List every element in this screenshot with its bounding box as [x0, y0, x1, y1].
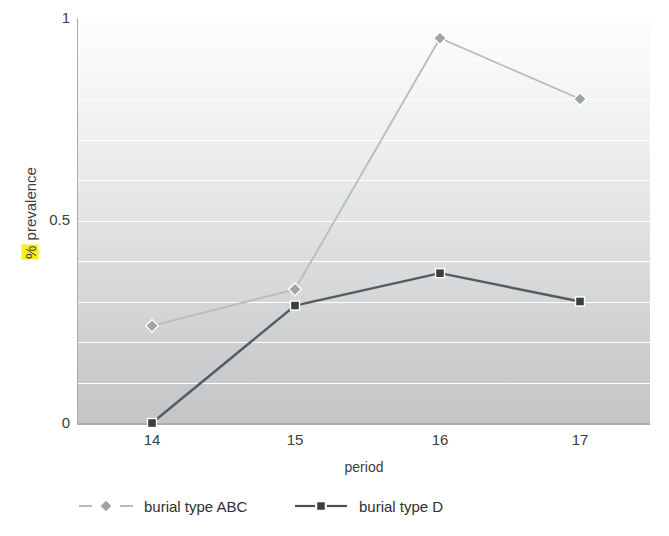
y-axis-title-text: prevalence [22, 167, 39, 245]
gridline-0.6 [78, 180, 650, 181]
gridline-0.3 [78, 302, 650, 303]
x-tick-17: 17 [550, 431, 610, 448]
y-axis-line [77, 18, 78, 424]
legend-item-burial-type-abc[interactable]: burial type ABC [78, 492, 247, 520]
legend: burial type ABC burial type D [78, 492, 558, 522]
x-axis-title: period [78, 459, 650, 475]
x-tick-15: 15 [265, 431, 325, 448]
legend-marker-square-icon [293, 498, 349, 514]
y-tick-1: 1 [6, 9, 70, 26]
plot-area [78, 18, 650, 423]
x-axis-line [77, 423, 650, 425]
legend-label-burial-type-d: burial type D [359, 498, 443, 515]
legend-marker-diamond-icon [78, 498, 134, 514]
legend-item-burial-type-d[interactable]: burial type D [293, 492, 443, 520]
gridline-0.9 [78, 59, 650, 60]
gridline-0.5 [78, 221, 650, 222]
y-tick-0: 0 [6, 414, 70, 431]
y-axis-title: % prevalence [22, 124, 39, 304]
gridline-0.4 [78, 261, 650, 262]
y-axis-title-highlight: % [22, 245, 39, 260]
gridline-0.1 [78, 383, 650, 384]
gridline-0.2 [78, 342, 650, 343]
x-tick-16: 16 [410, 431, 470, 448]
gridline-0.8 [78, 99, 650, 100]
chart-container: 1 0.5 0 14 15 16 17 period % prevalence … [0, 0, 669, 536]
x-tick-14: 14 [122, 431, 182, 448]
gridline-0.7 [78, 140, 650, 141]
legend-label-burial-type-abc: burial type ABC [144, 498, 247, 515]
